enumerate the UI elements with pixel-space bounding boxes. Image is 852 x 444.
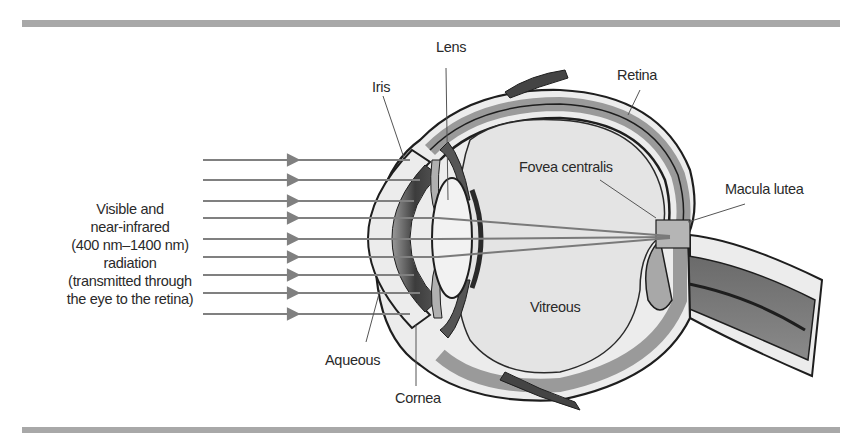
source-line-1: Visible and bbox=[96, 201, 164, 217]
source-line-3: (400 nm–1400 nm) bbox=[71, 237, 189, 253]
iris-leader bbox=[383, 96, 404, 158]
macula-region bbox=[656, 220, 690, 248]
aqueous-label: Aqueous bbox=[325, 352, 380, 368]
radiation-source-label: Visible and near-infrared (400 nm–1400 n… bbox=[67, 201, 193, 307]
iris-label: Iris bbox=[372, 79, 390, 95]
eyeball bbox=[375, 90, 695, 401]
source-line-5: (transmitted through bbox=[68, 273, 192, 289]
ray-1 bbox=[203, 155, 410, 165]
source-line-4: radiation bbox=[104, 255, 157, 271]
macula-leader bbox=[688, 204, 745, 222]
retina-label: Retina bbox=[617, 67, 658, 83]
aqueous-leader bbox=[366, 290, 380, 342]
lens-label: Lens bbox=[436, 39, 466, 55]
ray-9 bbox=[203, 309, 410, 319]
source-line-6: the eye to the retina) bbox=[67, 291, 193, 307]
fovea-centralis-label: Fovea centralis bbox=[519, 159, 613, 175]
vitreous-label: Vitreous bbox=[530, 299, 581, 315]
source-line-2: near-infrared bbox=[90, 219, 169, 235]
cornea-label: Cornea bbox=[395, 390, 442, 406]
macula-lutea-label: Macula lutea bbox=[725, 181, 805, 197]
eye-diagram: Visible and near-infrared (400 nm–1400 n… bbox=[0, 0, 852, 444]
